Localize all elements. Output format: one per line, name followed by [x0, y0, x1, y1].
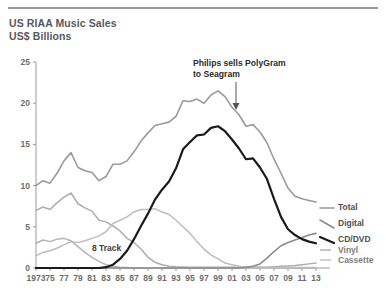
- y-tick-label: 20: [21, 98, 31, 108]
- series-line-digital: [36, 233, 316, 268]
- x-tick-label: 05: [255, 273, 265, 283]
- y-tick-label: 5: [25, 222, 30, 232]
- y-tick-label: 15: [21, 139, 31, 149]
- x-axis: 1973757779818385878991939597990103050709…: [27, 268, 330, 283]
- x-tick-label: 77: [59, 273, 69, 283]
- x-tick-label: 83: [101, 273, 111, 283]
- annotation-line-1: Philips sells PolyGram: [193, 58, 286, 68]
- legend-label-vinyl: Vinyl: [338, 245, 358, 255]
- x-tick-label: 99: [213, 273, 223, 283]
- x-tick-label: 93: [171, 273, 181, 283]
- x-tick-label: 09: [283, 273, 293, 283]
- legend-label-cassette: Cassette: [338, 255, 374, 265]
- x-tick-label: 07: [269, 273, 279, 283]
- chart-container: US RIAA Music Sales US$ Billions 0510152…: [0, 0, 386, 305]
- x-tick-label: 89: [143, 273, 153, 283]
- x-tick-label: 97: [199, 273, 209, 283]
- x-tick-label: 91: [157, 273, 167, 283]
- legend-label-digital: Digital: [338, 218, 364, 228]
- chart-svg: 0510152025 19737577798183858789919395979…: [0, 0, 386, 305]
- x-tick-label: 87: [129, 273, 139, 283]
- x-tick-label: 1973: [27, 273, 46, 283]
- legend: TotalDigitalCD/DVDVinylCassette: [320, 202, 374, 265]
- x-tick-label: 81: [87, 273, 97, 283]
- x-tick-label: 11: [298, 273, 307, 283]
- inline-label-8-track: 8 Track: [92, 243, 122, 253]
- annotation-callout: Philips sells PolyGramto Seagram8 Track: [92, 58, 286, 253]
- y-tick-label: 10: [21, 181, 31, 191]
- series-line-cassette: [36, 209, 316, 268]
- series-line-vinyl: [36, 193, 316, 267]
- x-tick-label: 79: [73, 273, 83, 283]
- annotation-line-2: to Seagram: [193, 69, 240, 79]
- series-lines: [36, 91, 316, 268]
- legend-label-cd-dvd: CD/DVD: [338, 234, 371, 244]
- y-tick-label: 0: [25, 263, 30, 273]
- legend-label-total: Total: [338, 202, 358, 212]
- y-tick-label: 25: [21, 57, 31, 67]
- x-tick-label: 03: [241, 273, 251, 283]
- y-axis: 0510152025: [21, 57, 36, 273]
- x-tick-label: 85: [115, 273, 125, 283]
- x-tick-label: 75: [45, 273, 55, 283]
- series-line-total: [36, 91, 316, 202]
- x-tick-label: 01: [227, 273, 237, 283]
- x-tick-label: 13: [311, 273, 321, 283]
- x-tick-label: 95: [185, 273, 195, 283]
